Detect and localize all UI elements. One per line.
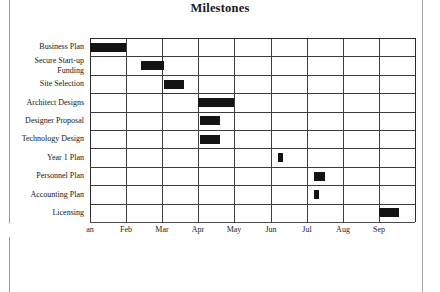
x-axis-tick-label: Mar bbox=[142, 225, 182, 234]
gantt-bar bbox=[200, 116, 220, 125]
x-axis-tick bbox=[198, 216, 199, 223]
gantt-row-label-line: Year 1 Plan bbox=[0, 153, 84, 163]
gantt-row-label: Licensing bbox=[0, 208, 84, 218]
gridline-horizontal bbox=[90, 93, 415, 94]
gridline-horizontal bbox=[90, 130, 415, 131]
gridline-horizontal bbox=[90, 56, 415, 57]
x-axis-line bbox=[90, 222, 415, 223]
x-axis-tick bbox=[90, 216, 91, 223]
gantt-bar bbox=[141, 61, 164, 70]
gantt-bar bbox=[379, 208, 399, 217]
gantt-bar bbox=[314, 172, 325, 181]
gridline-horizontal bbox=[90, 185, 415, 186]
x-axis-tick-label: an bbox=[70, 225, 110, 234]
gantt-bar bbox=[90, 43, 126, 52]
gantt-row-label-column: Business PlanSecure Start-upFundingSite … bbox=[0, 38, 87, 222]
page-title: Milestones bbox=[0, 1, 440, 16]
gantt-row-label-line: Personnel Plan bbox=[0, 171, 84, 181]
gantt-row-label-line: Designer Proposal bbox=[0, 116, 84, 126]
x-axis-tick bbox=[126, 216, 127, 223]
x-axis-tick bbox=[343, 216, 344, 223]
gantt-row-label: Technology Design bbox=[0, 134, 84, 144]
gantt-row-label-line: Secure Start-up bbox=[0, 56, 84, 66]
gantt-bar bbox=[200, 135, 220, 144]
x-axis-tick-label: Feb bbox=[106, 225, 146, 234]
page-border-right bbox=[422, 0, 423, 292]
gantt-row-label: Personnel Plan bbox=[0, 171, 84, 181]
gantt-row-label-line: Architect Designs bbox=[0, 98, 84, 108]
gantt-plot-area bbox=[90, 38, 415, 222]
x-axis-tick-label: Jul bbox=[287, 225, 327, 234]
x-axis-tick-label: Sep bbox=[359, 225, 399, 234]
gridline-horizontal bbox=[90, 38, 415, 39]
gantt-bar bbox=[278, 153, 283, 162]
gantt-row-label: Site Selection bbox=[0, 79, 84, 89]
x-axis-tick bbox=[307, 216, 308, 223]
gantt-row-label-line: Site Selection bbox=[0, 79, 84, 89]
x-axis-tick bbox=[162, 216, 163, 223]
gridline-horizontal bbox=[90, 75, 415, 76]
gridline-vertical bbox=[415, 38, 416, 222]
gantt-row-label: Business Plan bbox=[0, 42, 84, 52]
gantt-row-label: Designer Proposal bbox=[0, 116, 84, 126]
gridline-horizontal bbox=[90, 167, 415, 168]
gantt-row-label: Year 1 Plan bbox=[0, 153, 84, 163]
gantt-row-label-line: Funding bbox=[0, 66, 84, 76]
x-axis-tick-label: May bbox=[214, 225, 254, 234]
gantt-row-label-line: Technology Design bbox=[0, 134, 84, 144]
gantt-bar bbox=[314, 190, 319, 199]
x-axis-tick-label: Jun bbox=[251, 225, 291, 234]
gridline-horizontal bbox=[90, 148, 415, 149]
x-axis-tick-label: Aug bbox=[323, 225, 363, 234]
gantt-row-label-line: Licensing bbox=[0, 208, 84, 218]
x-axis-tick bbox=[379, 216, 380, 223]
gantt-row-label: Secure Start-upFunding bbox=[0, 56, 84, 75]
gantt-bar bbox=[198, 98, 234, 107]
x-axis-tick bbox=[271, 216, 272, 223]
gantt-row-label: Architect Designs bbox=[0, 98, 84, 108]
gridline-horizontal bbox=[90, 204, 415, 205]
gantt-row-label: Accounting Plan bbox=[0, 190, 84, 200]
x-axis-tick bbox=[234, 216, 235, 223]
gantt-row-label-line: Business Plan bbox=[0, 42, 84, 52]
gantt-row-label-line: Accounting Plan bbox=[0, 190, 84, 200]
gridline-horizontal bbox=[90, 112, 415, 113]
gantt-bar bbox=[164, 80, 184, 89]
x-axis-tick-label: Apr bbox=[178, 225, 218, 234]
